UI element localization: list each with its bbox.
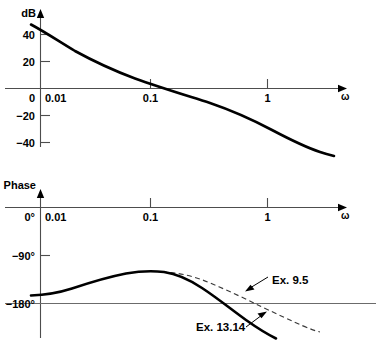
phase-xtick-1: 1 (264, 211, 270, 223)
magnitude-ytick-minus20: −20 (16, 110, 35, 122)
magnitude-curve (31, 25, 334, 157)
magnitude-ytick-0: 0 (29, 92, 35, 104)
magnitude-ytick-20: 20 (23, 56, 35, 68)
magnitude-xtick-0-1: 0.1 (143, 92, 158, 104)
phase-y-axis-label: Phase (4, 179, 36, 191)
annotation-ex-9-5-label: Ex. 9.5 (272, 274, 309, 286)
magnitude-x-axis-label: ω (341, 91, 350, 102)
annotation-ex-13-14: Ex. 13.14 (196, 312, 267, 334)
magnitude-y-axis-arrowhead (37, 9, 44, 18)
phase-ytick-minus180: −180° (6, 298, 35, 310)
magnitude-x-ticks (151, 79, 268, 89)
bode-plot-figure: 40 20 0 −20 −40 0.01 0.1 1 dB ω (0, 0, 376, 342)
phase-x-ticks (151, 198, 268, 208)
magnitude-y-axis-label: dB (21, 7, 36, 19)
magnitude-xtick-1: 1 (264, 92, 270, 104)
phase-y-axis-arrowhead (37, 189, 44, 198)
phase-ytick-minus90: −90° (12, 250, 35, 262)
magnitude-ytick-40: 40 (23, 29, 35, 41)
magnitude-xtick-0-01: 0.01 (45, 92, 66, 104)
phase-plot: 0° −90° −180° 0.01 0.1 1 Phase ω Ex. 9.5 (4, 179, 376, 339)
bode-plot-svg: 40 20 0 −20 −40 0.01 0.1 1 dB ω (0, 0, 376, 342)
annotation-ex-13-14-label: Ex. 13.14 (196, 321, 246, 333)
magnitude-ytick-minus40: −40 (16, 137, 35, 149)
phase-x-axis-label: ω (341, 210, 350, 221)
phase-ytick-0: 0° (24, 211, 35, 223)
phase-y-axis (37, 189, 44, 338)
magnitude-plot: 40 20 0 −20 −40 0.01 0.1 1 dB ω (5, 7, 350, 156)
phase-xtick-0-01: 0.01 (45, 211, 66, 223)
phase-xtick-0-1: 0.1 (143, 211, 158, 223)
annotation-ex-9-5: Ex. 9.5 (245, 274, 309, 292)
